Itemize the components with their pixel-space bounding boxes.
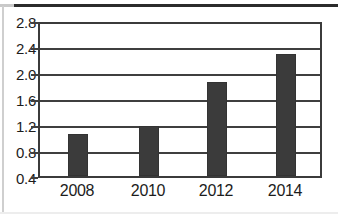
x-axis-label-2008: 2008 [60, 182, 94, 200]
bar-2012[interactable] [207, 82, 227, 176]
x-axis-label-2014: 2014 [268, 182, 302, 200]
y-axis-tick-0-8 [31, 152, 38, 154]
y-axis-tick-2-0 [31, 74, 38, 76]
y-axis-tick-2-8 [31, 22, 38, 24]
y-axis-tick-2-4 [31, 48, 38, 50]
gridline-2-4 [40, 48, 320, 50]
y-axis-tick-1-6 [31, 100, 38, 102]
y-axis-tick-1-2 [31, 126, 38, 128]
bar-2014[interactable] [276, 54, 296, 176]
bar-chart: 2.8 2.4 2.0 1.6 1.2 0.8 0.4 2008 2010 20… [0, 0, 338, 214]
y-axis-tick-0-4 [31, 177, 38, 179]
x-axis-label-2010: 2010 [131, 182, 165, 200]
bar-2008[interactable] [68, 134, 88, 176]
x-axis-label-2012: 2012 [199, 182, 233, 200]
bar-2010[interactable] [139, 126, 159, 176]
plot-area [38, 22, 322, 178]
